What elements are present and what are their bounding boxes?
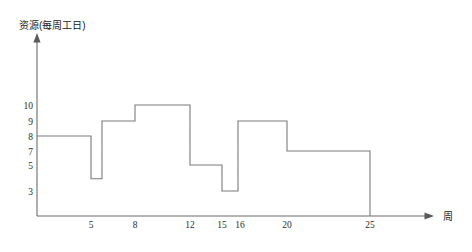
x-tick-label-16: 16	[235, 220, 245, 230]
step-series-resource	[37, 105, 370, 216]
x-tick-label-8: 8	[133, 220, 138, 230]
y-tick-label-8: 8	[28, 132, 33, 142]
x-tick-label-12: 12	[185, 220, 195, 230]
chart-canvas: 10 9 8 7 5 3 5 8 12 15 16 20 25 资源(每周工日)…	[0, 0, 472, 252]
y-tick-label-3: 3	[28, 187, 33, 197]
x-tick-label-5: 5	[89, 220, 94, 230]
y-tick-label-9: 9	[28, 117, 33, 127]
y-axis-arrow-icon	[33, 33, 40, 43]
x-axis-title: 周	[443, 211, 453, 222]
y-tick-label-7: 7	[28, 147, 33, 157]
x-tick-label-25: 25	[365, 220, 375, 230]
y-tick-label-5: 5	[28, 161, 33, 171]
y-axis-title: 资源(每周工日)	[19, 19, 86, 31]
x-axis-arrow-icon	[425, 212, 435, 219]
x-tick-label-15: 15	[217, 220, 227, 230]
x-tick-label-20: 20	[282, 220, 292, 230]
y-tick-label-10: 10	[24, 101, 34, 111]
resource-histogram-chart: 10 9 8 7 5 3 5 8 12 15 16 20 25 资源(每周工日)…	[0, 0, 472, 252]
